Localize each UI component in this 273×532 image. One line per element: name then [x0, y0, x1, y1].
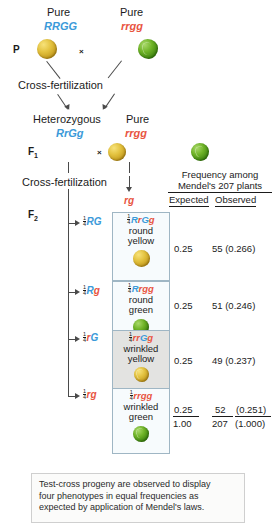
f1-subscript: 1 [34, 152, 38, 159]
progeny-genotype-4: 14rrgg [113, 390, 169, 402]
gamete-allele-4b: g [90, 389, 96, 400]
caption-line-2: four phenotypes in equal frequencies as [39, 491, 238, 503]
gamete-allele-2a: R [87, 285, 94, 296]
observed-fraction-4: (0.251) [236, 404, 266, 415]
f1-left-pea-round-yellow-icon [108, 143, 126, 161]
f2-gamete-label-1: 14RG [83, 216, 102, 228]
f1-left-arrowhead [64, 104, 72, 111]
caption-box: Test-cross progeny are observed to displ… [31, 473, 245, 523]
observed-value-2: 51 (0.246) [212, 300, 255, 311]
progeny-phenotype-4-line2: green [113, 412, 169, 423]
f2-gamete-label-3: 14rG [83, 332, 98, 344]
f2-generation-label: F2 [28, 209, 38, 222]
caption-line-3: expected by application of Mendel's laws… [39, 502, 238, 514]
total-expected: 1.00 [173, 416, 199, 429]
cross-fertilization-label-1: Cross-fertilization [18, 79, 103, 91]
progeny-pea-3-wrinkled-yellow-icon [113, 367, 169, 382]
f1-right-purity: Pure [126, 113, 149, 125]
progeny-genotype-2: 14Rrgg [113, 283, 169, 295]
branch-arrowhead-4 [75, 393, 80, 399]
gamete-allele-1a: R [87, 216, 94, 227]
p-right-purity: Pure [120, 6, 143, 18]
f1-left-purity: Heterozygous [33, 113, 101, 125]
progeny-allele-1c: G [141, 214, 148, 225]
f1-right-pea-wrinkled-green-icon [191, 143, 209, 161]
p-right-pea-wrinkled-green-icon [138, 39, 158, 59]
p-left-genotype: RRGG [44, 20, 77, 32]
f2-gamete-label-2: 14Rg [83, 285, 100, 297]
f1-generation-label: F1 [28, 146, 38, 159]
progeny-phenotype-2-line2: green [113, 305, 169, 316]
diagram-canvas: Pure RRGG Pure rrgg P × Cross-fertilizat… [0, 0, 273, 532]
f1-left-tick [68, 162, 69, 173]
observed-count-4: 52 [215, 404, 226, 415]
expected-value-4: 0.25 [174, 404, 193, 415]
cross-fertilization-label-2: Cross-fertilization [22, 176, 107, 188]
progeny-allele-1d: g [149, 214, 155, 225]
p-cross-symbol: × [79, 47, 84, 56]
branch-arrowhead-3 [75, 336, 80, 342]
p-left-pea-round-yellow-icon [37, 39, 57, 59]
branch-arrowhead-1 [75, 220, 80, 226]
progeny-box-3: 14rrGg wrinkled yellow [112, 330, 170, 392]
progeny-allele-1a: R [131, 214, 138, 225]
progeny-box-4: 14rrgg wrinkled green [112, 388, 170, 454]
expected-value-3: 0.25 [174, 355, 193, 366]
gamete-allele-1b: G [94, 216, 102, 227]
p-right-genotype: rrgg [121, 20, 143, 32]
f2-gamete-label-4: 14rg [83, 389, 97, 401]
progeny-box-1: 14RrGg round yellow [112, 212, 170, 281]
p-right-connector [108, 60, 122, 78]
expected-value-2: 0.25 [174, 300, 193, 311]
gamete-allele-3b: G [90, 332, 98, 343]
frequency-header-line2: Mendel's 207 plants [168, 180, 272, 193]
progeny-genotype-1: 14RrGg [113, 214, 169, 226]
observed-column-header: Observed [215, 194, 256, 207]
observed-value-1: 55 (0.266) [212, 243, 255, 254]
f2-subscript: 2 [34, 215, 38, 222]
progeny-allele-4d: g [146, 390, 152, 401]
f1-right-tick [129, 162, 130, 173]
p-left-connector [46, 61, 60, 79]
caption-line-1: Test-cross progeny are observed to displ… [39, 479, 238, 491]
progeny-pea-4-wrinkled-green-icon [113, 426, 169, 442]
total-observed-fraction: (1.000) [235, 416, 271, 429]
branch-arrowhead-2 [75, 289, 80, 295]
progeny-allele-2d: g [148, 283, 154, 294]
tester-gamete-arrowhead [126, 187, 132, 192]
f1-cross-symbol: × [97, 148, 102, 157]
p-generation-label: P [13, 44, 20, 55]
f1-left-genotype: RrGg [56, 127, 84, 139]
progeny-phenotype-3-line2: yellow [113, 354, 169, 365]
tester-gamete-label: rg [124, 195, 134, 206]
progeny-genotype-3: 14rrGg [113, 332, 169, 344]
progeny-pea-1-round-yellow-icon [113, 250, 169, 267]
progeny-phenotype-1-line2: yellow [113, 236, 169, 247]
f1-right-genotype: rrgg [125, 127, 147, 139]
p-left-purity: Pure [47, 6, 70, 18]
total-observed-count: 207 [212, 416, 233, 429]
progeny-allele-3d: g [147, 332, 153, 343]
progeny-allele-2a: R [132, 283, 139, 294]
observed-value-3: 49 (0.237) [212, 355, 255, 366]
gamete-allele-2b: g [94, 285, 100, 296]
frequency-header-line1: Frequency among [168, 169, 272, 180]
expected-column-header: Expected [169, 194, 209, 207]
expected-value-1: 0.25 [174, 243, 193, 254]
